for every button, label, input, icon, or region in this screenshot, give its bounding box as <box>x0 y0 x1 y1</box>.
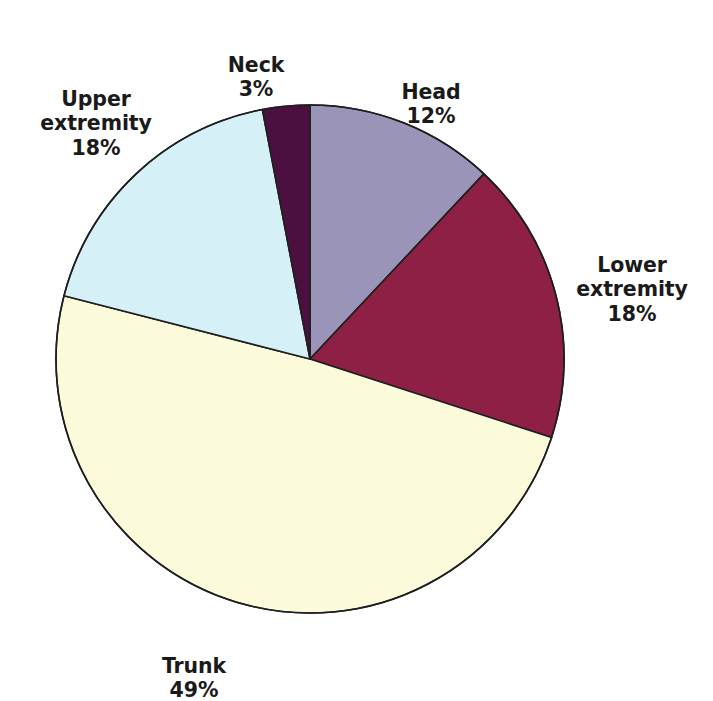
pie-label-upper-extremity-name: Upper extremity <box>40 87 152 136</box>
pie-label-head-percent: 12% <box>368 104 494 129</box>
pie-label-upper-extremity-percent: 18% <box>8 136 184 161</box>
pie-label-upper-extremity: Upper extremity 18% <box>8 62 184 185</box>
pie-label-lower-extremity-name: Lower extremity <box>576 253 688 302</box>
pie-label-trunk-percent: 49% <box>130 678 258 701</box>
pie-label-head-name: Head <box>401 80 460 104</box>
pie-label-neck-percent: 3% <box>196 77 316 102</box>
pie-label-lower-extremity: Lower extremity 18% <box>556 228 708 351</box>
pie-chart: Neck 3% Head 12% Upper extremity 18% Low… <box>0 0 713 701</box>
pie-label-trunk-name: Trunk <box>162 654 226 678</box>
pie-label-trunk: Trunk 49% <box>130 629 258 701</box>
pie-label-neck-name: Neck <box>228 53 284 77</box>
pie-label-lower-extremity-percent: 18% <box>556 302 708 327</box>
pie-label-neck: Neck 3% <box>196 28 316 126</box>
pie-label-head: Head 12% <box>368 55 494 153</box>
